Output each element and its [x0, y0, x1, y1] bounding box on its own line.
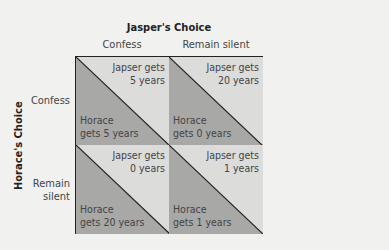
payoff-line: 20 years — [206, 74, 259, 87]
payoff-line: Japser gets — [112, 149, 165, 162]
payoff-line: 5 years — [112, 74, 165, 87]
jasper-payoff: Japser gets5 years — [112, 61, 165, 87]
payoff-line: 1 years — [206, 162, 259, 175]
payoff-line: gets 1 years — [173, 216, 231, 229]
column-header-confess: Confess — [75, 38, 169, 51]
payoff-cell-silent-confess: Japser gets0 years Horacegets 20 years — [76, 145, 170, 234]
payoff-cell-confess-silent: Japser gets20 years Horacegets 0 years — [169, 57, 263, 146]
payoff-cell-confess-confess: Japser gets5 years Horacegets 5 years — [76, 57, 170, 146]
row-header-confess: Confess — [31, 94, 70, 107]
jasper-payoff: Japser gets20 years — [206, 61, 259, 87]
payoff-line: Horace — [173, 114, 231, 127]
horace-payoff: Horacegets 5 years — [80, 114, 138, 140]
row-header-line: Remain — [33, 177, 70, 190]
horace-payoff: Horacegets 1 years — [173, 203, 231, 229]
payoff-line: gets 0 years — [173, 127, 231, 140]
row-header-line: Confess — [31, 94, 70, 107]
column-header-remain-silent: Remain silent — [169, 38, 263, 51]
payoff-line: Japser gets — [206, 61, 259, 74]
row-header-remain-silent: Remain silent — [33, 177, 70, 203]
payoff-line: Japser gets — [112, 61, 165, 74]
payoff-matrix: Japser gets5 years Horacegets 5 years Ja… — [75, 56, 263, 234]
row-header-line: silent — [33, 190, 70, 203]
jasper-payoff: Japser gets1 years — [206, 149, 259, 175]
row-player-title: Horace's Choice — [12, 101, 25, 190]
payoff-line: gets 20 years — [80, 216, 144, 229]
payoff-line: gets 5 years — [80, 127, 138, 140]
horace-payoff: Horacegets 20 years — [80, 203, 144, 229]
payoff-line: 0 years — [112, 162, 165, 175]
payoff-line: Horace — [80, 203, 144, 216]
payoff-line: Horace — [173, 203, 231, 216]
column-player-title: Jasper's Choice — [75, 21, 263, 34]
payoff-cell-silent-silent: Japser gets1 years Horacegets 1 years — [169, 145, 263, 234]
payoff-line: Japser gets — [206, 149, 259, 162]
horace-payoff: Horacegets 0 years — [173, 114, 231, 140]
payoff-line: Horace — [80, 114, 138, 127]
jasper-payoff: Japser gets0 years — [112, 149, 165, 175]
